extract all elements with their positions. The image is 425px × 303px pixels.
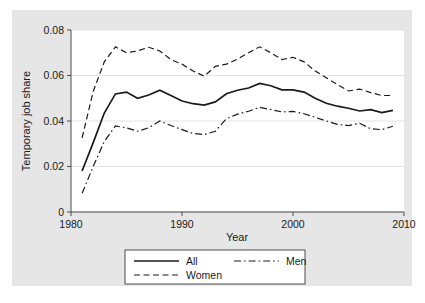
x-axis-title: Year: [226, 231, 249, 243]
y-tick-label: 0.02: [44, 160, 65, 172]
x-tick-label: 2000: [281, 218, 305, 230]
chart-legend: AllMenWomen: [125, 250, 307, 284]
x-tick-label: 1980: [59, 218, 83, 230]
y-axis-title: Temporary job share: [20, 71, 32, 171]
y-tick-label: 0: [58, 206, 64, 218]
y-axis-ticks: 00.020.040.060.08: [44, 24, 71, 218]
legend-label-men: Men: [286, 255, 307, 267]
legend-label-women: Women: [186, 269, 222, 281]
y-tick-label: 0.06: [44, 69, 65, 81]
y-tick-label: 0.08: [44, 24, 65, 36]
legend-label-all: All: [186, 255, 198, 267]
x-axis-ticks: 1980199020002010: [59, 212, 416, 230]
y-tick-label: 0.04: [44, 115, 65, 127]
x-tick-label: 2010: [392, 218, 416, 230]
x-tick-label: 1990: [170, 218, 194, 230]
temporary-job-share-chart: 00.020.040.060.08 1980199020002010 Tempo…: [0, 0, 425, 303]
